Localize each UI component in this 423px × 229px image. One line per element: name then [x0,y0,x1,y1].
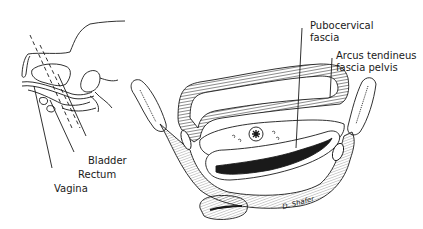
arcus-tendineus-label-line1: Arcus tendineus [336,50,417,61]
pelvic-cross-section [131,64,376,219]
sagittal-inset [22,21,125,128]
arcus-tendineus-label-line2: fascia pelvis [336,62,398,73]
pubocervical-fascia-label-line1: Pubocervical [310,20,374,31]
pubocervical-fascia-label-line2: fascia [310,32,339,43]
bladder-label: Bladder [88,155,127,166]
rectum-label: Rectum [78,169,116,180]
vagina-label: Vagina [54,183,88,194]
pelvic-anatomy-illustration [0,0,423,229]
